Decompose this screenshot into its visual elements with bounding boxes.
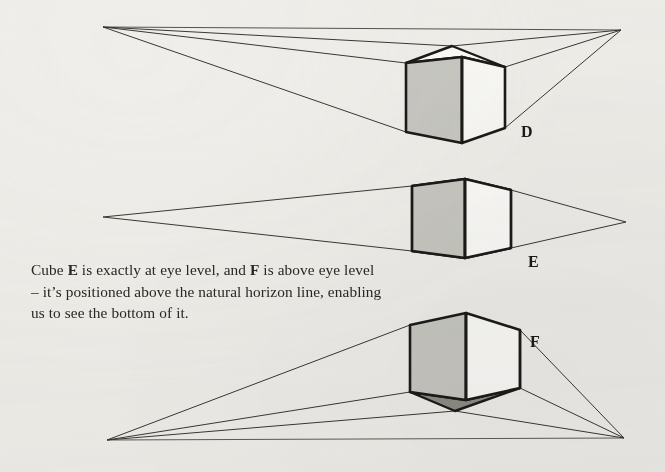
figure-f [107, 313, 624, 440]
caption-cube-e-ref: E [68, 261, 78, 278]
figure-d-perspective-lines [103, 27, 621, 143]
figure-d [103, 27, 621, 143]
caption-line-1-c: is exactly at eye level, and [78, 261, 250, 278]
diagram-page: D E F Cube E is exactly at eye level, an… [0, 0, 665, 472]
figure-label-d: D [521, 123, 533, 141]
caption-line-1-a: Cube [31, 261, 68, 278]
caption-text: Cube E is exactly at eye level, and F is… [31, 259, 383, 324]
cube-d [406, 46, 505, 143]
cube-f-right-face [466, 313, 520, 400]
figure-e [103, 179, 626, 258]
cube-f-left-face [410, 313, 466, 400]
perspective-cubes-diagram [0, 0, 665, 472]
cube-e [412, 179, 511, 258]
caption-line-1-e: is above eye [259, 261, 340, 278]
cube-f [410, 313, 520, 411]
figure-e-perspective-lines [103, 179, 626, 258]
cube-d-left-face [406, 57, 462, 143]
cube-e-left-face [412, 179, 465, 258]
cube-e-right-face [465, 179, 511, 258]
figure-label-e: E [528, 253, 539, 271]
cube-d-right-face [462, 57, 505, 143]
figure-f-perspective-lines [107, 325, 624, 440]
figure-label-f: F [530, 333, 540, 351]
